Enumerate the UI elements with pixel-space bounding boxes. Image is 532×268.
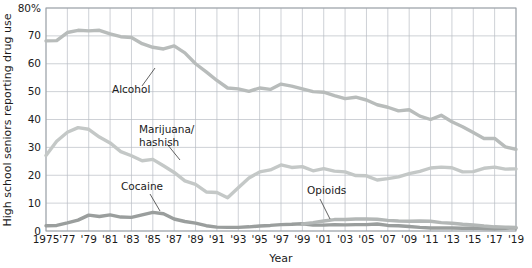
- y-tick-label: 80%: [18, 2, 41, 14]
- x-tick-label: '77: [59, 233, 75, 245]
- x-tick-label: '91: [209, 233, 225, 245]
- x-tick-label: '81: [102, 233, 118, 245]
- x-tick-label: 1975: [33, 233, 60, 245]
- y-tick-label: 40: [28, 113, 41, 125]
- y-axis-title: High school seniors reporting drug use: [1, 13, 14, 226]
- x-tick-label: '03: [337, 233, 353, 245]
- x-tick-label: '89: [187, 233, 203, 245]
- series-annotation-label: Opioids: [307, 184, 346, 196]
- x-tick-label: '05: [358, 233, 374, 245]
- drug-use-line-chart: 01020304050607080% 1975'77'79'81'83'85'8…: [0, 0, 532, 268]
- chart-figure: 01020304050607080% 1975'77'79'81'83'85'8…: [0, 0, 532, 268]
- x-tick-label: '15: [465, 233, 481, 245]
- x-tick-label: '85: [145, 233, 161, 245]
- y-tick-label: 60: [28, 57, 41, 69]
- y-tick-label: 20: [28, 169, 41, 181]
- x-tick-label: '97: [273, 233, 289, 245]
- x-axis-title: Year: [268, 252, 293, 265]
- x-tick-label: '13: [444, 233, 460, 245]
- y-tick-label: 10: [28, 197, 41, 209]
- y-tick-label: 50: [28, 85, 41, 97]
- x-tick-label: '79: [81, 233, 97, 245]
- series-annotation-label: Alcohol: [112, 83, 150, 95]
- series-annotation-label: Marijuana/: [139, 123, 195, 135]
- x-axis-tick-labels: 1975'77'79'81'83'85'87'89'91'93'95'97'99…: [33, 233, 524, 245]
- x-tick-label: '87: [166, 233, 182, 245]
- x-tick-label: '99: [294, 233, 310, 245]
- series-annotation-label: hashish: [139, 136, 179, 148]
- x-tick-label: '01: [316, 233, 332, 245]
- x-tick-label: '83: [123, 233, 139, 245]
- x-tick-label: '19: [508, 233, 524, 245]
- x-tick-label: '09: [401, 233, 417, 245]
- y-tick-label: 70: [28, 29, 41, 41]
- x-tick-label: '17: [487, 233, 503, 245]
- x-tick-label: '07: [380, 233, 396, 245]
- series-annotation-label: Cocaine: [121, 180, 163, 192]
- y-tick-label: 30: [28, 141, 41, 153]
- x-tick-label: '11: [422, 233, 438, 245]
- x-tick-label: '95: [252, 233, 268, 245]
- x-tick-label: '93: [230, 233, 246, 245]
